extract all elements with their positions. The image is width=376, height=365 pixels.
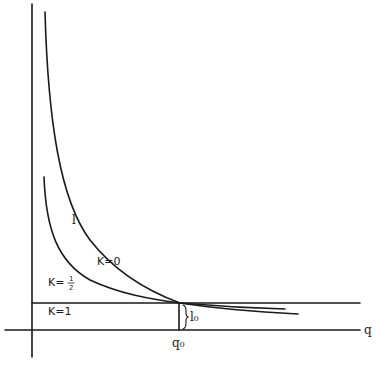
k-half-label: K= — [48, 276, 64, 289]
k-half-numerator: 1 — [69, 275, 73, 283]
l0-brace-icon — [183, 305, 188, 329]
k0-label: K=0 — [97, 255, 120, 268]
k1-label: K=1 — [48, 305, 71, 318]
x-axis-label: q — [364, 323, 372, 337]
q0-label: q₀ — [172, 336, 185, 350]
k-half-denominator: 2 — [69, 284, 73, 292]
diagram-canvas: l₀ q₀ q l K=0 K= 1 2 K=1 — [0, 0, 376, 365]
curve-l-label: l — [72, 213, 76, 227]
l0-label: l₀ — [190, 310, 199, 324]
curve-k-half — [44, 177, 285, 309]
curve-k0 — [45, 12, 298, 314]
